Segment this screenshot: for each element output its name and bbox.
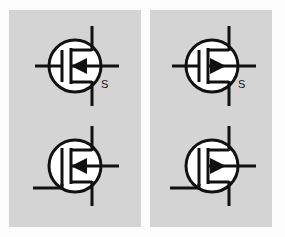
mosfet-symbol-left-bottom	[31, 122, 123, 210]
source-label: S	[238, 79, 245, 90]
source-label: S	[101, 79, 108, 90]
left-panel: S	[9, 10, 141, 227]
figure-root: S	[0, 0, 285, 237]
mosfet-glyph-right-bottom	[168, 122, 260, 210]
mosfet-symbol-right-bottom	[168, 122, 260, 210]
mosfet-symbol-left-top: S	[31, 22, 123, 110]
mosfet-glyph-left-top	[31, 22, 123, 110]
right-panel: S	[150, 10, 272, 227]
mosfet-glyph-left-bottom	[31, 122, 123, 210]
mosfet-symbol-right-top: S	[168, 22, 260, 110]
mosfet-glyph-right-top	[168, 22, 260, 110]
